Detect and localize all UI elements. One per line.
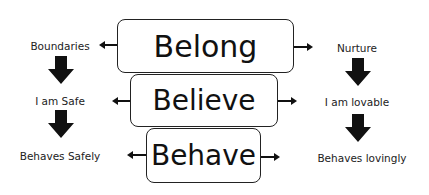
nurture-label: Nurture: [337, 42, 377, 54]
down-arrow-icon: [345, 58, 371, 86]
left-arrow-icon: [112, 97, 130, 105]
belong-label: Belong: [154, 29, 258, 64]
right-arrow-icon: [261, 153, 280, 161]
belong-box: Belong: [117, 19, 294, 73]
believe-label: Believe: [152, 84, 255, 117]
behaves-lovingly-label: Behaves lovingly: [317, 152, 406, 164]
believe-box: Believe: [130, 74, 278, 127]
down-arrow-icon: [345, 114, 371, 142]
boundaries-label: Boundaries: [30, 40, 89, 52]
i-am-lovable-label: I am lovable: [325, 96, 389, 108]
right-arrow-icon: [278, 97, 297, 105]
down-arrow-icon: [48, 110, 74, 138]
left-arrow-icon: [127, 151, 146, 159]
i-am-safe-label: I am Safe: [35, 95, 85, 107]
behave-label: Behave: [151, 139, 256, 172]
behave-box: Behave: [146, 128, 261, 183]
behaves-safely-label: Behaves Safely: [20, 150, 101, 162]
right-arrow-icon: [294, 43, 313, 51]
left-arrow-icon: [99, 41, 117, 49]
down-arrow-icon: [48, 56, 74, 84]
